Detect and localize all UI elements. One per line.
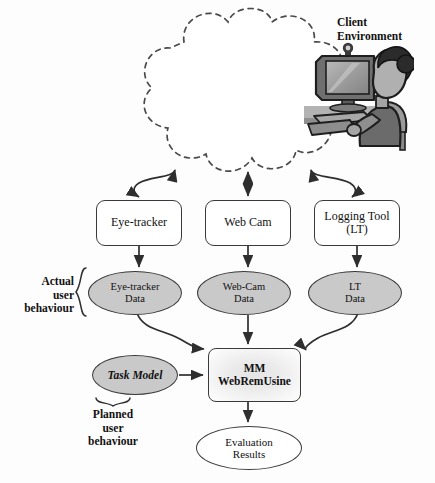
node-lt-data[interactable]: LT Data [308, 271, 402, 315]
diagram-canvas: Client Environment Actual user behaviour… [0, 0, 435, 483]
user-at-computer-illustration [302, 40, 414, 152]
node-web-cam[interactable]: Web Cam [205, 200, 291, 246]
actual-behaviour-brace [76, 268, 86, 316]
planned-behaviour-brace [96, 398, 130, 406]
node-web-cam-data[interactable]: Web-Cam Data [197, 271, 291, 315]
node-eye-tracker[interactable]: Eye-tracker [96, 200, 182, 246]
node-eye-tracker-data[interactable]: Eye-tracker Data [88, 271, 182, 315]
node-task-model[interactable]: Task Model [92, 355, 178, 395]
node-mm-webremusine[interactable]: MM WebRemUsine [208, 348, 301, 402]
client-environment-label: Client Environment [337, 16, 402, 43]
client-environment-cloud [122, 2, 360, 180]
planned-user-behaviour-label: Planned user behaviour [70, 408, 156, 449]
actual-user-behaviour-label: Actual user behaviour [8, 275, 74, 316]
node-evaluation-results[interactable]: Evaluation Results [196, 426, 302, 470]
node-logging-tool[interactable]: Logging Tool (LT) [314, 200, 400, 246]
